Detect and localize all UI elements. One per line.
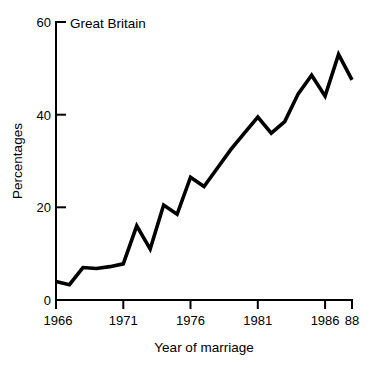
y-axis-ticks [56, 22, 66, 300]
line-chart: 60 40 20 0 1966 1971 1976 1981 1986 88 G… [0, 0, 370, 365]
x-tick-label-1986: 1986 [311, 313, 340, 328]
chart-axes [56, 22, 352, 300]
x-tick-label-1971: 1971 [109, 313, 138, 328]
x-tick-label-1981: 1981 [243, 313, 272, 328]
y-tick-label-60: 60 [37, 15, 51, 30]
x-axis-title: Year of marriage [154, 340, 253, 355]
x-axis-tick-labels: 1966 1971 1976 1981 1986 88 [44, 313, 360, 328]
chart-title: Great Britain [70, 16, 146, 31]
x-tick-label-1966: 1966 [44, 313, 73, 328]
chart-figure: 60 40 20 0 1966 1971 1976 1981 1986 88 G… [0, 0, 370, 365]
x-axis-ticks [56, 300, 352, 309]
y-axis-title: Percentages [10, 123, 25, 199]
data-series-line [56, 54, 352, 284]
y-axis-tick-labels: 60 40 20 0 [37, 15, 51, 308]
y-tick-label-20: 20 [37, 200, 51, 215]
y-tick-label-0: 0 [44, 293, 51, 308]
x-tick-label-1976: 1976 [176, 313, 205, 328]
x-tick-label-1988: 88 [345, 313, 359, 328]
y-tick-label-40: 40 [37, 108, 51, 123]
